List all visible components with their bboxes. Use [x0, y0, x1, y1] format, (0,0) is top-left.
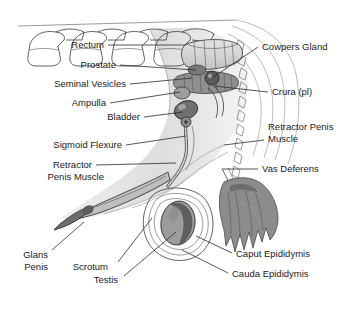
label-cowpers-gland: Cowpers Gland — [262, 41, 327, 52]
label-penis-muscle: Penis Muscle — [48, 171, 105, 182]
label-scrotum: Scrotum — [73, 261, 108, 272]
diagram-canvas: RectumProstateSeminal VesiclesAmpullaBla… — [0, 0, 356, 312]
label-vas-deferens: Vas Deferens — [262, 163, 319, 174]
label-retractor: Retractor — [53, 159, 92, 170]
label-retractor-penis: Retractor Penis — [268, 121, 334, 132]
label-caput-epididymis: Caput Epididymis — [236, 248, 310, 259]
label-penis: Penis — [24, 261, 48, 272]
anatomical-diagram: RectumProstateSeminal VesiclesAmpullaBla… — [0, 0, 356, 312]
label-testis: Testis — [94, 274, 119, 285]
label-cauda-epididymis: Cauda Epididymis — [232, 268, 309, 279]
label-glans: Glans — [23, 249, 48, 260]
label-crura-pl: Crura (pl) — [272, 86, 312, 97]
label-rectum: Rectum — [71, 39, 104, 50]
label-sigmoid-flexure: Sigmoid Flexure — [53, 139, 122, 150]
label-bladder: Bladder — [107, 111, 140, 122]
label-muscle: Muscle — [268, 133, 298, 144]
label-ampulla: Ampulla — [72, 97, 107, 108]
ampulla-body — [174, 87, 190, 99]
label-seminal-vesicles: Seminal Vesicles — [54, 78, 126, 89]
label-prostate: Prostate — [81, 59, 116, 70]
